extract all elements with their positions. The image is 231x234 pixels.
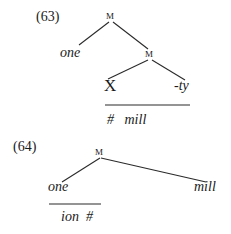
tree-branches: [0, 0, 231, 234]
branch-line: [113, 22, 148, 49]
branch-line: [152, 60, 185, 80]
branch-line: [108, 60, 148, 79]
branch-line: [79, 22, 109, 45]
branch-line: [62, 158, 100, 182]
branch-line: [101, 158, 206, 182]
